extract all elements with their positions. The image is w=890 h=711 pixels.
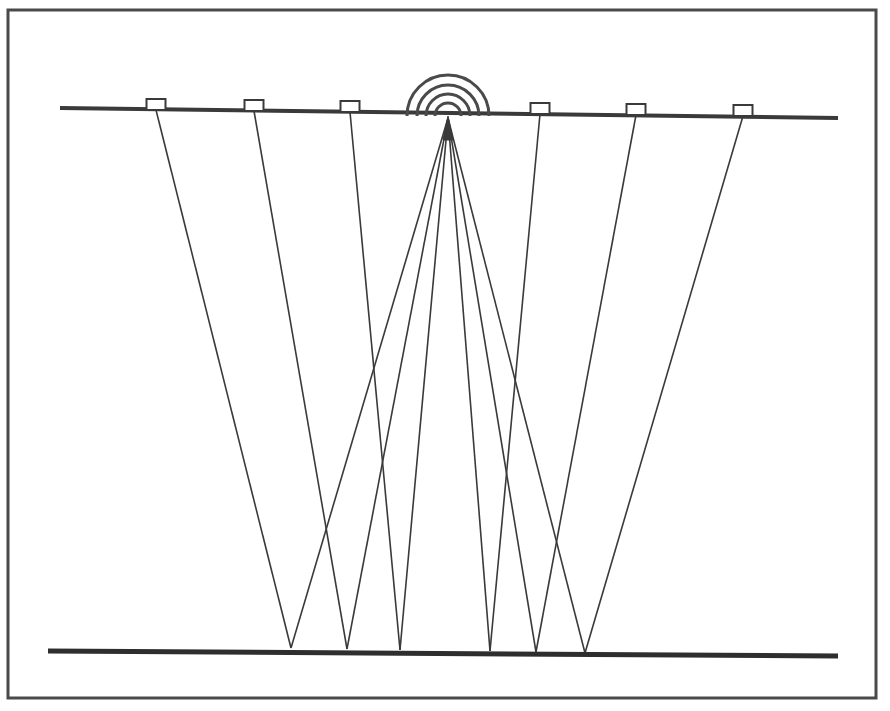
source-wavefront-group — [407, 75, 489, 116]
raypath-3-upgoing-ray — [350, 112, 400, 650]
raypath-6-upgoing-ray — [585, 116, 743, 653]
surface-line — [60, 108, 838, 118]
seismic-raypath-svg — [0, 0, 890, 711]
raypath-5-upgoing-ray — [536, 115, 636, 652]
geophone-6-icon — [734, 105, 753, 116]
raypath-1-upgoing-ray — [156, 110, 291, 648]
raypath-5-downgoing-ray — [448, 118, 536, 652]
geophone-2-icon — [245, 100, 264, 111]
wavefront-arc-4-icon — [407, 75, 489, 116]
geophone-3-icon — [341, 101, 360, 112]
raypath-2-upgoing-ray — [254, 111, 347, 649]
raypath-2-downgoing-ray — [347, 118, 448, 649]
diagram-canvas — [0, 0, 890, 711]
raypath-group — [156, 110, 743, 653]
geophone-4-icon — [531, 103, 550, 114]
geophone-1-icon — [147, 99, 166, 110]
reflector-line — [48, 651, 838, 656]
geophone-5-icon — [627, 104, 646, 115]
